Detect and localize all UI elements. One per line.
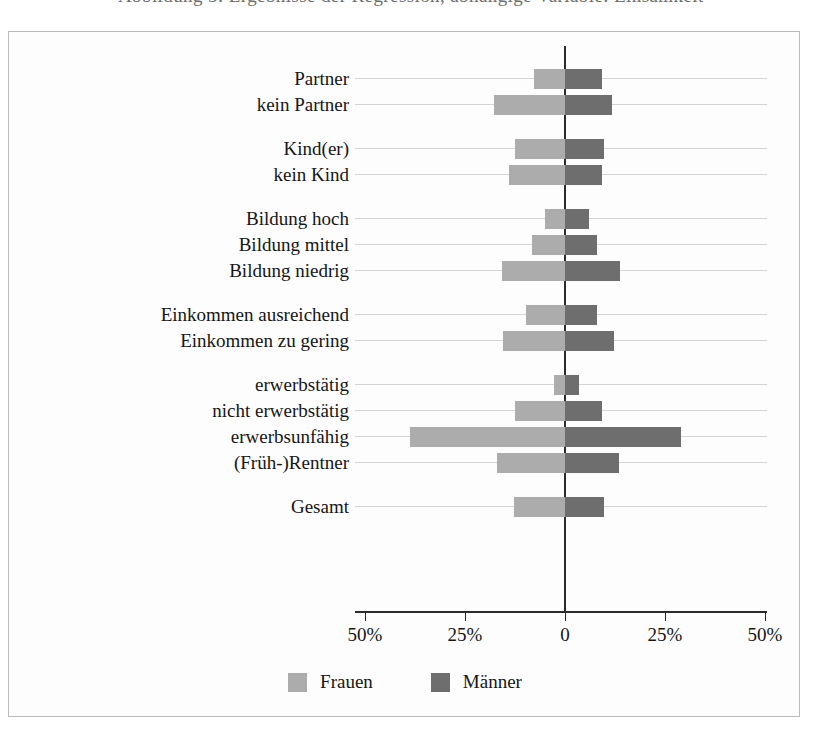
x-axis-tick-label: 0 xyxy=(525,624,605,646)
scan-top-cut-text: Abbildung 5: Ergebnisse der Regression, … xyxy=(0,0,816,22)
x-axis-tick-label: 25% xyxy=(425,624,505,646)
legend-label: Männer xyxy=(463,671,522,693)
category-label: erwerbsunfähig xyxy=(231,426,349,448)
bar-maenner xyxy=(565,235,597,255)
legend: FrauenMänner xyxy=(9,671,801,693)
bar-maenner xyxy=(565,95,612,115)
bar-frauen xyxy=(534,69,565,89)
category-label: Einkommen zu gering xyxy=(180,330,349,352)
bar-maenner xyxy=(565,375,579,395)
bar-maenner xyxy=(565,427,681,447)
bar-maenner xyxy=(565,331,614,351)
category-label: Bildung hoch xyxy=(246,208,349,230)
bar-frauen xyxy=(514,497,565,517)
bar-frauen xyxy=(410,427,565,447)
x-axis-tick xyxy=(365,613,366,621)
legend-item: Männer xyxy=(431,671,522,693)
chart-row: Kind(er) xyxy=(9,136,801,162)
chart-row: Einkommen ausreichend xyxy=(9,302,801,328)
bar-frauen xyxy=(526,305,565,325)
x-axis-tick xyxy=(465,613,466,621)
x-axis-tick-label: 50% xyxy=(325,624,405,646)
figure-frame: Partnerkein PartnerKind(er)kein KindBild… xyxy=(8,31,800,717)
legend-label: Frauen xyxy=(320,671,373,693)
bar-frauen xyxy=(494,95,565,115)
chart-row: Einkommen zu gering xyxy=(9,328,801,354)
bar-frauen xyxy=(532,235,565,255)
chart-row: kein Partner xyxy=(9,92,801,118)
bar-frauen xyxy=(497,453,565,473)
category-label: kein Partner xyxy=(257,94,349,116)
bar-frauen xyxy=(545,209,565,229)
plot-area: Partnerkein PartnerKind(er)kein KindBild… xyxy=(9,32,801,718)
chart-row: Bildung mittel xyxy=(9,232,801,258)
bar-maenner xyxy=(565,401,602,421)
category-label: erwerbstätig xyxy=(255,374,349,396)
chart-row: Bildung niedrig xyxy=(9,258,801,284)
chart-row: erwerbsunfähig xyxy=(9,424,801,450)
x-axis-tick xyxy=(665,613,666,621)
bar-frauen xyxy=(503,331,565,351)
category-label: Kind(er) xyxy=(284,138,349,160)
chart-row: kein Kind xyxy=(9,162,801,188)
bar-maenner xyxy=(565,497,604,517)
chart-row: Partner xyxy=(9,66,801,92)
bar-maenner xyxy=(565,165,602,185)
bar-frauen xyxy=(515,139,565,159)
bar-frauen xyxy=(509,165,565,185)
bar-frauen xyxy=(515,401,565,421)
category-label: Gesamt xyxy=(291,496,349,518)
category-label: nicht erwerbstätig xyxy=(212,400,349,422)
bar-frauen xyxy=(554,375,565,395)
chart-row: (Früh-)Rentner xyxy=(9,450,801,476)
category-label: Partner xyxy=(294,68,349,90)
chart-row: erwerbstätig xyxy=(9,372,801,398)
chart-row: Bildung hoch xyxy=(9,206,801,232)
scan-top-cut-text-label: Abbildung 5: Ergebnisse der Regression, … xyxy=(118,0,704,7)
bar-frauen xyxy=(502,261,565,281)
x-axis-tick xyxy=(765,613,766,621)
bar-maenner xyxy=(565,305,597,325)
bar-maenner xyxy=(565,453,619,473)
bar-maenner xyxy=(565,261,620,281)
chart-row: nicht erwerbstätig xyxy=(9,398,801,424)
legend-swatch-frauen xyxy=(288,673,307,692)
x-axis-tick-label: 50% xyxy=(725,624,805,646)
bar-maenner xyxy=(565,139,604,159)
chart-row: Gesamt xyxy=(9,494,801,520)
x-axis-line xyxy=(355,611,767,613)
x-axis-tick xyxy=(565,613,566,621)
legend-item: Frauen xyxy=(288,671,373,693)
category-label: Bildung niedrig xyxy=(229,260,349,282)
category-label: Bildung mittel xyxy=(239,234,349,256)
legend-swatch-maenner xyxy=(431,673,450,692)
bar-maenner xyxy=(565,209,589,229)
category-label: (Früh-)Rentner xyxy=(234,452,349,474)
category-label: kein Kind xyxy=(274,164,349,186)
category-label: Einkommen ausreichend xyxy=(161,304,349,326)
bar-maenner xyxy=(565,69,602,89)
x-axis-tick-label: 25% xyxy=(625,624,705,646)
